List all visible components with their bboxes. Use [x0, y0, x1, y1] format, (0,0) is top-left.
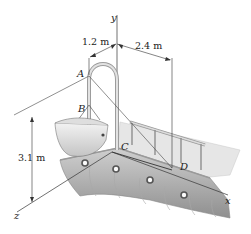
dimension-3-1m: 3.1 m — [18, 153, 45, 163]
x-axis-label: x — [225, 196, 231, 206]
dimension-2-4m: 2.4 m — [135, 41, 162, 51]
diagram-drawing — [0, 0, 251, 234]
point-B-label: B — [78, 104, 85, 114]
point-A-label: A — [77, 69, 84, 79]
z-axis-label: z — [14, 211, 19, 221]
diagram-figure: y x z A B C D 1.2 m 2.4 m 3.1 m — [0, 0, 251, 234]
lifeboat — [55, 118, 108, 156]
y-axis-label: y — [111, 13, 117, 23]
point-D-label: D — [180, 162, 188, 172]
dimension-1-2m: 1.2 m — [82, 37, 109, 47]
point-C-label: C — [121, 142, 129, 152]
